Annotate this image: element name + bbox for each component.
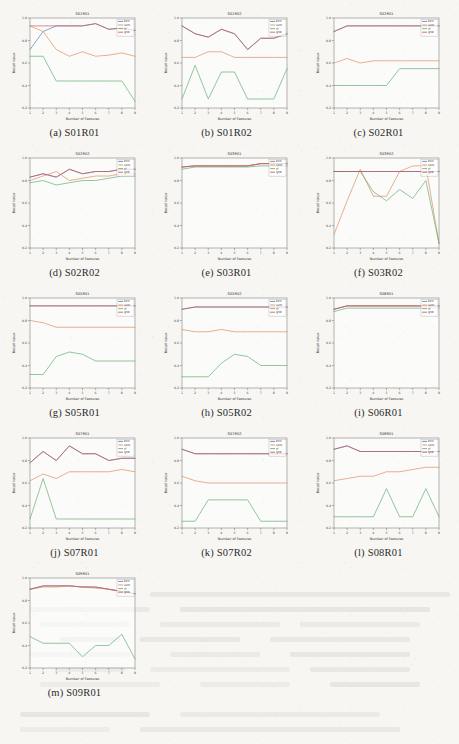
x-tick-label: 2 bbox=[194, 251, 196, 255]
plot-S03R02: S03R02123456789Number of Features0.20.40… bbox=[312, 146, 445, 266]
plot-title: S09R01 bbox=[76, 572, 90, 576]
y-tick-label: 0.6 bbox=[22, 481, 27, 485]
x-tick-label: 1 bbox=[29, 531, 31, 535]
panel-caption-S07R02: (k) S07R02 bbox=[160, 547, 293, 558]
panel-caption-S05R01: (g) S05R01 bbox=[8, 407, 141, 418]
x-tick-label: 7 bbox=[260, 391, 262, 395]
legend-label-gnb: gnb bbox=[124, 310, 130, 314]
x-axis-label: Number of Features bbox=[370, 117, 404, 121]
y-tick-label: 0.2 bbox=[174, 106, 179, 110]
grid-cell: S07R02123456789Number of Features0.20.40… bbox=[160, 426, 293, 558]
y-tick-label: 0.4 bbox=[174, 84, 179, 88]
x-tick-label: 2 bbox=[194, 391, 196, 395]
x-tick-label: 5 bbox=[385, 391, 387, 395]
x-tick-label: 9 bbox=[286, 531, 288, 535]
x-tick-label: 6 bbox=[399, 111, 401, 115]
plot-title: S06R01 bbox=[380, 292, 394, 296]
plot-S06R01: S06R01123456789Number of Features0.20.40… bbox=[312, 286, 445, 406]
figure-panel-S03R02: S03R02123456789Number of Features0.20.40… bbox=[312, 146, 445, 278]
x-tick-label: 2 bbox=[42, 251, 44, 255]
x-tick-label: 7 bbox=[108, 391, 110, 395]
x-tick-label: 3 bbox=[207, 531, 209, 535]
plot-S08R01: S08R01123456789Number of Features0.20.40… bbox=[312, 426, 445, 546]
x-tick-label: 3 bbox=[207, 111, 209, 115]
x-tick-label: 4 bbox=[220, 531, 222, 535]
y-tick-label: 0.4 bbox=[22, 364, 27, 368]
y-tick-label: 0.8 bbox=[174, 39, 179, 43]
legend-label-gnb: gnb bbox=[124, 30, 130, 34]
y-tick-label: 0.8 bbox=[22, 599, 27, 603]
plot-S07R01: S07R01123456789Number of Features0.20.40… bbox=[8, 426, 141, 546]
figure-panel-S01R02: S01R02123456789Number of Features0.20.40… bbox=[160, 6, 293, 138]
figure-panel-S08R01: S08R01123456789Number of Features0.20.40… bbox=[312, 426, 445, 558]
y-tick-label: 0.4 bbox=[326, 224, 331, 228]
plot-S09R01: S09R01123456789Number of Features0.20.40… bbox=[8, 566, 141, 686]
figure-panel-S01R01: S01R01123456789Number of Features0.20.40… bbox=[8, 6, 141, 138]
plot-title: S01R02 bbox=[228, 12, 242, 16]
y-axis-label: Recall Value bbox=[12, 53, 16, 74]
y-axis-label: Recall Value bbox=[316, 333, 320, 354]
grid-cell: S03R02123456789Number of Features0.20.40… bbox=[312, 146, 445, 278]
x-tick-label: 5 bbox=[233, 111, 235, 115]
x-tick-label: 1 bbox=[29, 111, 31, 115]
figure-panel-S05R01: S05R01123456789Number of Features0.20.40… bbox=[8, 286, 141, 418]
x-tick-label: 4 bbox=[220, 251, 222, 255]
figure-panel-S06R01: S06R01123456789Number of Features0.20.40… bbox=[312, 286, 445, 418]
x-axis-label: Number of Features bbox=[218, 397, 252, 401]
plot-title: S02R02 bbox=[76, 152, 90, 156]
legend-label-gnb: gnb bbox=[428, 310, 434, 314]
x-tick-label: 3 bbox=[359, 391, 361, 395]
y-tick-label: 0.6 bbox=[22, 61, 27, 65]
y-axis-label: Recall Value bbox=[12, 613, 16, 634]
x-tick-label: 1 bbox=[181, 111, 183, 115]
y-axis-label: Recall Value bbox=[12, 473, 16, 494]
x-tick-label: 9 bbox=[134, 671, 136, 675]
x-tick-label: 8 bbox=[425, 251, 427, 255]
y-axis-label: Recall Value bbox=[164, 473, 168, 494]
x-tick-label: 1 bbox=[333, 251, 335, 255]
panel-caption-S05R02: (h) S05R02 bbox=[160, 407, 293, 418]
y-tick-label: 0.2 bbox=[22, 106, 27, 110]
y-tick-label: 0.8 bbox=[174, 179, 179, 183]
figure-sheet: S01R01123456789Number of Features0.20.40… bbox=[0, 0, 459, 744]
x-tick-label: 8 bbox=[121, 531, 123, 535]
x-tick-label: 7 bbox=[108, 531, 110, 535]
x-tick-label: 3 bbox=[55, 391, 57, 395]
legend-label-gnb: gnb bbox=[428, 170, 434, 174]
plot-S05R01: S05R01123456789Number of Features0.20.40… bbox=[8, 286, 141, 406]
y-tick-label: 0.4 bbox=[326, 504, 331, 508]
y-axis-label: Recall Value bbox=[316, 53, 320, 74]
x-tick-label: 7 bbox=[260, 251, 262, 255]
x-tick-label: 9 bbox=[286, 111, 288, 115]
x-tick-label: 9 bbox=[134, 111, 136, 115]
x-tick-label: 7 bbox=[108, 671, 110, 675]
y-tick-label: 0.2 bbox=[22, 386, 27, 390]
y-tick-label: 1.0 bbox=[22, 436, 27, 440]
y-tick-label: 0.2 bbox=[22, 666, 27, 670]
panel-caption-S02R02: (d) S02R02 bbox=[8, 267, 141, 278]
x-tick-label: 8 bbox=[273, 111, 275, 115]
plot-S03R01: S03R01123456789Number of Features0.20.40… bbox=[160, 146, 293, 266]
x-tick-label: 8 bbox=[121, 251, 123, 255]
x-tick-label: 1 bbox=[181, 251, 183, 255]
legend-label-gnb: gnb bbox=[276, 30, 282, 34]
grid-cell: S02R01123456789Number of Features0.20.40… bbox=[312, 6, 445, 138]
plot-title: S03R02 bbox=[380, 152, 394, 156]
y-tick-label: 0.2 bbox=[174, 526, 179, 530]
y-tick-label: 0.2 bbox=[22, 526, 27, 530]
x-tick-label: 1 bbox=[333, 111, 335, 115]
x-tick-label: 2 bbox=[346, 531, 348, 535]
x-tick-label: 6 bbox=[247, 531, 249, 535]
x-tick-label: 7 bbox=[108, 251, 110, 255]
panel-caption-S03R01: (e) S03R01 bbox=[160, 267, 293, 278]
y-tick-label: 0.6 bbox=[174, 341, 179, 345]
y-axis-label: Recall Value bbox=[164, 333, 168, 354]
grid-cell: S05R02123456789Number of Features0.20.40… bbox=[160, 286, 293, 418]
x-tick-label: 9 bbox=[134, 391, 136, 395]
x-tick-label: 5 bbox=[233, 251, 235, 255]
legend-label-gnb: gnb bbox=[124, 170, 130, 174]
y-tick-label: 0.8 bbox=[174, 319, 179, 323]
grid-cell: S01R02123456789Number of Features0.20.40… bbox=[160, 6, 293, 138]
x-axis-label: Number of Features bbox=[66, 677, 100, 681]
plot-S05R02: S05R02123456789Number of Features0.20.40… bbox=[160, 286, 293, 406]
